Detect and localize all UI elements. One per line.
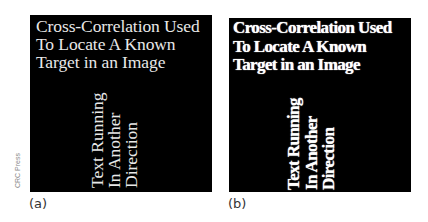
panel-label-a: (a)	[29, 196, 47, 211]
vertical-text: Text Running In Another Direction	[285, 98, 338, 190]
vertical-text: Text Running In Another Direction	[89, 92, 140, 188]
horizontal-text: Cross-Correlation Used To Locate A Known…	[233, 19, 392, 75]
panel-label-b: (b)	[228, 196, 246, 211]
image-panel-b: Cross-Correlation Used To Locate A Known…	[229, 18, 411, 192]
credit-text: CRC Press	[14, 153, 21, 188]
horizontal-text: Cross-Correlation Used To Locate A Known…	[36, 17, 200, 71]
image-panel-a: Cross-Correlation Used To Locate A Known…	[30, 15, 212, 192]
